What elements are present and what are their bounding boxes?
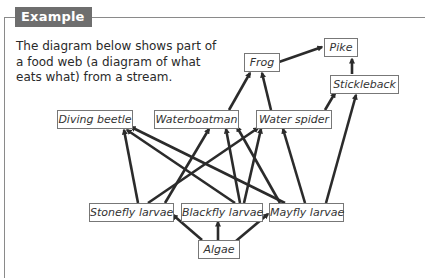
arrow-frog-pike	[279, 47, 322, 62]
arrow-waterspider-stickleback	[325, 93, 335, 110]
node-diving-beetle: Diving beetle	[57, 110, 133, 129]
arrow-stonefly-divingbeetle	[124, 130, 138, 203]
node-stonefly-larvae: Stonefly larvae	[89, 203, 174, 222]
arrow-waterspider-frog	[262, 73, 271, 110]
node-stickleback: Stickleback	[330, 75, 399, 94]
node-blackfly-larvae: Blackfly larvae	[181, 203, 263, 222]
arrow-mayfly-divingbeetle	[131, 127, 285, 203]
node-mayfly-larvae: Mayfly larvae	[269, 203, 344, 222]
node-water-spider: Water spider	[256, 110, 332, 129]
arrow-waterboatman-frog	[229, 73, 250, 110]
arrow-blackfly-waterboatman	[226, 129, 240, 203]
arrow-blackfly-divingbeetle	[127, 130, 235, 203]
node-pike: Pike	[324, 38, 358, 57]
arrow-mayfly-waterspider	[283, 129, 305, 203]
node-waterboatman: Waterboatman	[154, 110, 239, 129]
node-algae: Algae	[198, 240, 240, 259]
node-frog: Frog	[244, 53, 280, 72]
